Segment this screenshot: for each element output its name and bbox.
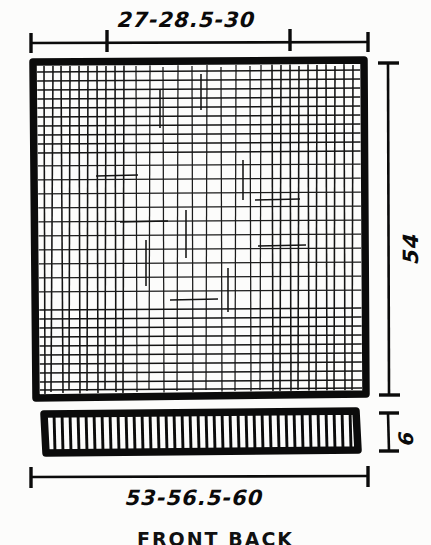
top-width-dimension-label: 27-28.5-30 — [117, 8, 256, 32]
bottom-width-dimension-label: 53-56.5-60 — [125, 486, 264, 510]
drawing-caption: FRONT BACK — [0, 528, 431, 545]
strip-height-dimension-label: 6 — [394, 430, 418, 447]
panel-height-dimension-line-group — [378, 63, 400, 395]
bottom-dimension-line-group — [31, 466, 368, 488]
pattern-drawing-canvas — [0, 0, 431, 545]
top-dimension-line-group — [31, 29, 368, 53]
main-panel-hatch-fill — [37, 64, 363, 394]
panel-height-dimension-label: 54 — [399, 232, 423, 265]
technical-drawing-page: 27-28.5-30 54 6 53-56.5-60 FRONT BACK — [0, 0, 431, 545]
